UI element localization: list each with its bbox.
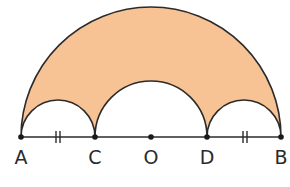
label-c: C <box>88 148 101 167</box>
label-a: A <box>15 148 28 167</box>
point-o <box>148 134 154 140</box>
label-o: O <box>144 148 159 167</box>
point-b <box>278 134 284 140</box>
point-a <box>18 134 24 140</box>
point-d <box>204 134 210 140</box>
point-c <box>92 134 98 140</box>
shaded-region <box>21 7 281 137</box>
label-b: B <box>274 148 287 167</box>
label-d: D <box>200 148 215 167</box>
